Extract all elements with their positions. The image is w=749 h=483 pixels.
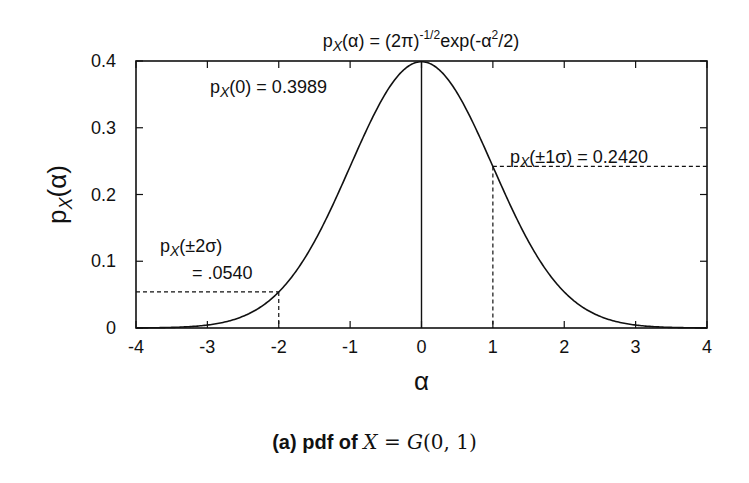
annotation-sigma2: pX(±2σ) [160, 236, 222, 259]
x-tick-label: 0 [416, 337, 426, 357]
x-tick-label: -2 [271, 337, 287, 357]
caption-x: X [363, 430, 377, 454]
caption-eq: = [378, 430, 407, 454]
annotation-sigma2-value: = .0540 [192, 263, 253, 283]
y-tick-label: 0.3 [91, 118, 116, 138]
y-tick-label: 0.1 [91, 251, 116, 271]
gaussian-pdf-chart: -4-3-2-10123400.10.20.30.4αpX(α)pX(α) = … [0, 0, 749, 483]
x-tick-label: 4 [702, 337, 712, 357]
annotation-sigma1: pX(±1σ) = 0.2420 [510, 147, 648, 170]
x-tick-label: 2 [559, 337, 569, 357]
x-tick-label: -1 [342, 337, 358, 357]
y-tick-label: 0.4 [91, 51, 116, 71]
x-tick-label: -4 [128, 337, 144, 357]
chart-title: pX(α) = (2π)-1/2exp(-α2/2) [323, 28, 520, 54]
x-axis-label: α [414, 366, 429, 396]
x-tick-label: 3 [631, 337, 641, 357]
caption-prefix: (a) pdf of [272, 431, 363, 453]
x-tick-label: 1 [488, 337, 498, 357]
caption-args: (0, 1) [423, 430, 477, 454]
figure-caption: (a) pdf of X = G(0, 1) [0, 430, 749, 454]
y-axis-label: pX(α) [42, 165, 76, 224]
y-tick-label: 0.2 [91, 185, 116, 205]
caption-g: G [407, 430, 423, 454]
y-tick-label: 0 [106, 318, 116, 338]
annotation-peak: pX(0) = 0.3989 [210, 77, 327, 100]
x-tick-label: -3 [199, 337, 215, 357]
